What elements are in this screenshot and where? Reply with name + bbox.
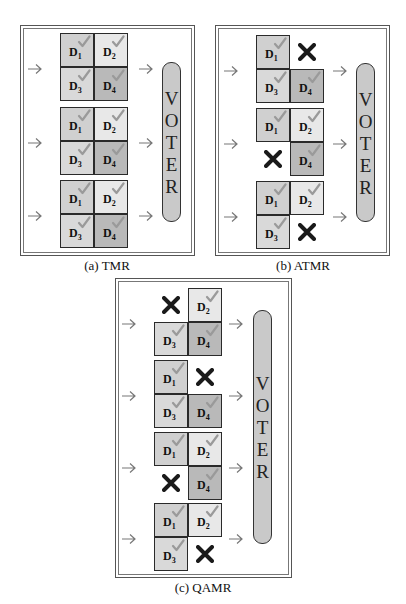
check-icon: [111, 181, 125, 194]
voter-letter: V: [254, 373, 271, 395]
module-b-2: D1D2D4: [256, 108, 324, 176]
cell-d4: D4: [94, 67, 128, 101]
cell-label-sub: 1: [78, 126, 82, 135]
cell-d1: D1: [256, 35, 290, 69]
cell-label-sub: 4: [112, 233, 116, 242]
cell-label-sub: 4: [308, 88, 312, 97]
module-c-1: D2D3D4: [154, 288, 222, 356]
cell-label-sub: 2: [112, 199, 116, 208]
cell-d2: D2: [94, 180, 128, 214]
input-arrow-icon: [27, 208, 43, 220]
cell-label-sub: 3: [172, 413, 176, 422]
output-arrow-icon: [332, 209, 348, 221]
cell-label-sub: 1: [78, 199, 82, 208]
module-c-3: D1D2D4: [154, 432, 222, 500]
module-c-4: D1D2D3: [154, 503, 222, 571]
check-icon: [307, 143, 321, 156]
check-icon: [273, 182, 287, 195]
cell-label-sub: 1: [274, 200, 278, 209]
caption-atmr: (b) ATMR: [213, 258, 393, 274]
voter-letter: E: [163, 154, 180, 176]
check-icon: [273, 109, 287, 122]
input-arrow-icon: [121, 316, 137, 328]
output-arrow-icon: [228, 460, 244, 472]
cell-label-sub: 1: [78, 52, 82, 61]
cell-d3: D3: [256, 69, 290, 103]
cell-d1: D1: [60, 107, 94, 141]
cell-d2: D2: [290, 181, 324, 215]
check-icon: [273, 36, 287, 49]
cell-d4: D4: [290, 142, 324, 176]
cell-d1: D1: [60, 180, 94, 214]
input-arrow-icon: [121, 460, 137, 472]
cell-label-sub: 2: [112, 126, 116, 135]
cell-d2: D2: [188, 503, 222, 537]
cell-d4: D4: [94, 141, 128, 175]
check-icon: [205, 395, 219, 408]
voter-a: VOTER: [162, 62, 181, 222]
cell-label-sub: 3: [78, 233, 82, 242]
cell-label-sub: 3: [172, 556, 176, 565]
cell-label-sub: 4: [112, 160, 116, 169]
cell-d2: D2: [94, 107, 128, 141]
voter-letter: R: [357, 177, 374, 199]
cross-icon: [154, 288, 188, 322]
voter-letter: O: [254, 395, 271, 417]
cell-label-sub: 2: [308, 200, 312, 209]
output-arrow-icon: [228, 531, 244, 543]
check-icon: [111, 34, 125, 47]
output-arrow-icon: [332, 63, 348, 75]
output-arrow-icon: [138, 61, 154, 73]
cell-label-sub: 4: [206, 341, 210, 350]
check-icon: [171, 323, 185, 336]
input-arrow-icon: [223, 63, 239, 75]
cropped-text-fragment: [0, 0, 406, 6]
cell-label-sub: 3: [274, 88, 278, 97]
cross-icon: [256, 142, 290, 176]
check-icon: [111, 142, 125, 155]
cell-label-sub: 1: [172, 522, 176, 531]
cell-label-sub: 4: [206, 413, 210, 422]
check-icon: [111, 68, 125, 81]
cell-label-sub: 2: [308, 127, 312, 136]
voter-b: VOTER: [356, 63, 375, 222]
cell-d2: D2: [188, 288, 222, 322]
cell-d1: D1: [256, 181, 290, 215]
input-arrow-icon: [121, 531, 137, 543]
check-icon: [77, 34, 91, 47]
cell-d2: D2: [290, 108, 324, 142]
check-icon: [273, 70, 287, 83]
check-icon: [77, 108, 91, 121]
check-icon: [171, 538, 185, 551]
voter-letter: R: [163, 176, 180, 198]
cell-label-sub: 1: [274, 127, 278, 136]
cross-icon: [188, 360, 222, 394]
cell-label-sub: 1: [172, 451, 176, 460]
module-b-3: D1D2D3: [256, 181, 324, 249]
check-icon: [205, 289, 219, 302]
cell-label-sub: 2: [206, 451, 210, 460]
voter-letter: E: [254, 439, 271, 461]
cell-label-sub: 4: [112, 86, 116, 95]
cell-d2: D2: [188, 432, 222, 466]
cell-d4: D4: [290, 69, 324, 103]
cell-d4: D4: [94, 214, 128, 248]
check-icon: [205, 433, 219, 446]
cell-d3: D3: [256, 215, 290, 249]
voter-c: VOTER: [253, 310, 272, 544]
cell-d3: D3: [60, 214, 94, 248]
input-arrow-icon: [223, 136, 239, 148]
check-icon: [307, 70, 321, 83]
module-b-1: D1D3D4: [256, 35, 324, 103]
cell-label-sub: 3: [274, 234, 278, 243]
module-a-3: D1D2D3D4: [60, 180, 128, 248]
check-icon: [77, 181, 91, 194]
caption-qamr: (c) QAMR: [113, 580, 293, 596]
check-icon: [111, 215, 125, 228]
output-arrow-icon: [138, 135, 154, 147]
check-icon: [111, 108, 125, 121]
cell-label-sub: 2: [206, 307, 210, 316]
check-icon: [171, 504, 185, 517]
check-icon: [205, 323, 219, 336]
input-arrow-icon: [27, 135, 43, 147]
